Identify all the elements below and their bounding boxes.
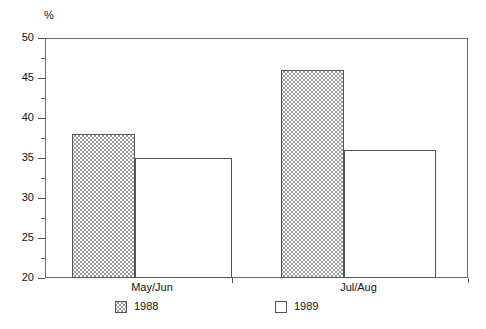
crosshatch-swatch <box>115 301 127 313</box>
x-tick <box>232 278 233 283</box>
legend-label: 1989 <box>294 300 318 313</box>
bar-jul-aug-1989 <box>344 150 436 278</box>
y-tick-label: 25 <box>4 232 34 243</box>
y-tick-major <box>38 278 45 279</box>
bar-jul-aug-1988 <box>281 70 344 278</box>
legend-entry-1988[interactable]: 1988 <box>115 300 158 313</box>
bar-may-jun-1988 <box>72 134 135 278</box>
bar-may-jun-1989 <box>135 158 232 278</box>
y-tick-label: 35 <box>4 152 34 163</box>
y-tick-major <box>38 118 45 119</box>
y-tick-major <box>38 78 45 79</box>
empty-swatch <box>275 301 287 313</box>
y-tick-major <box>38 238 45 239</box>
y-tick-minor <box>41 178 45 179</box>
y-tick-major <box>38 38 45 39</box>
legend-label: 1988 <box>134 300 158 313</box>
y-tick-minor <box>41 218 45 219</box>
bar-chart: % 20253035404550 May/JunJul/Aug 19881989 <box>0 0 486 329</box>
y-tick-minor <box>41 98 45 99</box>
y-tick-major <box>38 198 45 199</box>
x-category-label: May/Jun <box>112 281 192 294</box>
y-tick-label: 50 <box>4 32 34 43</box>
y-tick-major <box>38 158 45 159</box>
y-tick-minor <box>41 138 45 139</box>
y-tick-label: 40 <box>4 112 34 123</box>
y-tick-label: 20 <box>4 272 34 283</box>
y-tick-label: 30 <box>4 192 34 203</box>
y-axis-unit-label: % <box>44 9 54 22</box>
y-tick-minor <box>41 258 45 259</box>
y-tick-label: 45 <box>4 72 34 83</box>
x-category-label: Jul/Aug <box>319 281 399 294</box>
chart-legend: 19881989 <box>0 300 486 320</box>
x-tick <box>468 278 469 283</box>
legend-entry-1989[interactable]: 1989 <box>275 300 318 313</box>
y-tick-minor <box>41 58 45 59</box>
